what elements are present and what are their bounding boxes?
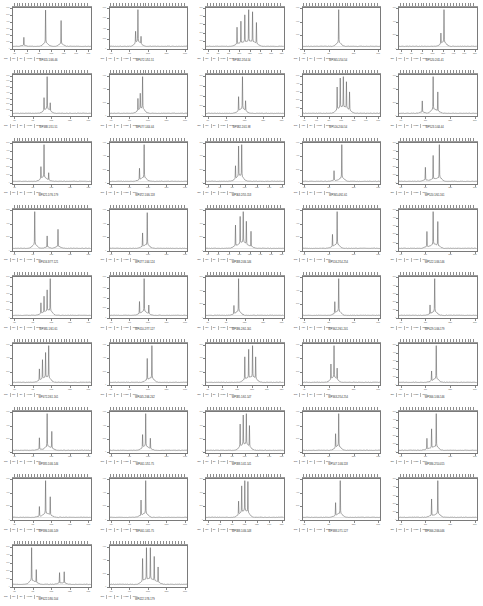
- plot-box[interactable]: [205, 74, 285, 117]
- spectrum-panel[interactable]: 020004000600040080012001600Obs.calc.Err.…: [290, 471, 387, 538]
- plot-box[interactable]: [398, 142, 478, 185]
- spectrum-panel[interactable]: 0200040006000400700100013001600Obs.calc.…: [97, 67, 194, 134]
- spectrum-panel[interactable]: 0200040006000400700100013001600Obs.calc.…: [0, 404, 97, 471]
- spectrum-panel[interactable]: 01000200030004000500040080012001600Obs.c…: [386, 336, 483, 403]
- spectrum-panel[interactable]: 0100020003000400050006000400600800100012…: [0, 0, 97, 67]
- spectrum-panel[interactable]: 0200040006000400700100013001600Obs.calc.…: [97, 202, 194, 269]
- plot-box[interactable]: [205, 142, 285, 185]
- spectrum-panel[interactable]: 01000200030004000500040080012001600Obs.c…: [386, 269, 483, 336]
- y-tick-label: 0: [299, 183, 300, 185]
- plot-box[interactable]: [12, 142, 92, 185]
- plot-box[interactable]: [12, 411, 92, 454]
- spectrum-panel[interactable]: 0200040006000400600800100012001400160018…: [193, 202, 290, 269]
- plot-box[interactable]: [302, 411, 382, 454]
- spectrum-panel[interactable]: 0200040006000400700100013001600Obs.calc.…: [0, 471, 97, 538]
- caption-field-label: calc.: [205, 191, 209, 193]
- field-separator: [420, 393, 421, 397]
- plot-box[interactable]: [109, 142, 189, 185]
- caption-field-label: Err.: [310, 57, 313, 59]
- spectrum-panel[interactable]: 010002000300040005000400700100013001600O…: [0, 538, 97, 605]
- spectrum-panel[interactable]: 02000400060004006008001000120014001600Ob…: [193, 471, 290, 538]
- plot-box[interactable]: [205, 478, 285, 521]
- spectrum-panel[interactable]: 020004000600040080012001600Obs.calc.Err.…: [290, 135, 387, 202]
- panel-sample-id: WP363.2/55.153: [232, 194, 252, 197]
- spectrum-panel[interactable]: 010002000300040005000400700100013001600O…: [0, 135, 97, 202]
- spectrum-panel[interactable]: 01000200030004000500040080012001600Obs.c…: [386, 404, 483, 471]
- plot-box[interactable]: [109, 478, 189, 521]
- spectrum-panel[interactable]: 0200040006000400700100013001600Obs.calc.…: [97, 538, 194, 605]
- y-tick-label: 4000: [296, 357, 299, 359]
- y-tick-label: 3000: [393, 427, 396, 429]
- spectrum-panel[interactable]: 0200040006000400700100013001600Obs.calc.…: [97, 336, 194, 403]
- spectrum-panel[interactable]: 02000400060008000400700100013001600Obs.c…: [97, 0, 194, 67]
- spectrum-panel[interactable]: 0200040006000400700100013001600Obs.calc.…: [0, 202, 97, 269]
- plot-box[interactable]: [302, 209, 382, 252]
- plot-box[interactable]: [205, 276, 285, 319]
- caption-field-label: Err.: [406, 124, 409, 126]
- plot-box[interactable]: [109, 545, 189, 588]
- spectrum-panel[interactable]: 0200040006000400600800100012001400160018…: [386, 0, 483, 67]
- spectrum-panel[interactable]: 01000200030004000500040080012001600Obs.c…: [386, 471, 483, 538]
- plot-box[interactable]: [109, 7, 189, 50]
- spectrum-panel[interactable]: 02000400060004007001000130016001800Obs.c…: [193, 336, 290, 403]
- plot-box[interactable]: [398, 478, 478, 521]
- plot-box[interactable]: [302, 343, 382, 386]
- plot-box[interactable]: [398, 411, 478, 454]
- plot-box[interactable]: [302, 7, 382, 50]
- spectrum-panel[interactable]: 020004000600040080012001600Obs.calc.Err.…: [290, 269, 387, 336]
- plot-box[interactable]: [109, 276, 189, 319]
- spectrum-panel[interactable]: 0200040006000400700100013001600Obs.calc.…: [97, 135, 194, 202]
- plot-box[interactable]: [205, 7, 285, 50]
- spectrum-panel[interactable]: 0200040006000400700100013001600Obs.calc.…: [0, 336, 97, 403]
- plot-box[interactable]: [12, 7, 92, 50]
- spectrum-panel[interactable]: 0200040006000400700100013001600Obs.calc.…: [193, 269, 290, 336]
- plot-box[interactable]: [398, 7, 478, 50]
- caption-field: calc.: [302, 393, 306, 395]
- plot-box[interactable]: [205, 411, 285, 454]
- spectrum-panel[interactable]: 010002000300040005000400700100013001600O…: [0, 269, 97, 336]
- plot-box[interactable]: [398, 276, 478, 319]
- plot-box[interactable]: [12, 209, 92, 252]
- panel-sample-id: WP366.2/46.046: [425, 530, 445, 533]
- plot-box[interactable]: [109, 209, 189, 252]
- caption-field-label: Height: [220, 460, 225, 462]
- spectrum-panel[interactable]: 02000400060004006008001000120014001600Ob…: [193, 135, 290, 202]
- plot-box[interactable]: [302, 478, 382, 521]
- spectrum-panel[interactable]: 02000400060008000400700100013001600Obs.c…: [97, 269, 194, 336]
- spectrum-panel[interactable]: 020004000600040080012001600Obs.calc.Err.…: [290, 336, 387, 403]
- spectrum-panel[interactable]: 020004000600040080012001600Obs.calc.Err.…: [290, 404, 387, 471]
- plot-box[interactable]: [302, 276, 382, 319]
- plot-box[interactable]: [302, 74, 382, 117]
- spectrum-panel[interactable]: 02000400060004006008001000120014001600Ob…: [193, 404, 290, 471]
- spectrum-panel[interactable]: 0100020003000400050004006008001000120014…: [193, 0, 290, 67]
- plot-box[interactable]: [109, 343, 189, 386]
- spectrum-panel[interactable]: 020004000600040080012001600Obs.calc.Err.…: [386, 67, 483, 134]
- field-separator: [324, 528, 325, 532]
- panel-sample-id: WP382.2/41.98: [232, 126, 250, 129]
- plot-box[interactable]: [109, 411, 189, 454]
- spectrum-panel[interactable]: 0200040006000400700100013001600Obs.calc.…: [97, 471, 194, 538]
- spectrum-panel[interactable]: 0100020003000400050006000700040070010001…: [0, 67, 97, 134]
- spectrum-panel[interactable]: 02000400060008000400700100013001600Obs.c…: [193, 67, 290, 134]
- spectrum-panel[interactable]: 0200040006000400700100013001600Obs.calc.…: [97, 404, 194, 471]
- plot-box[interactable]: [109, 74, 189, 117]
- spectrum-panel[interactable]: 01000200030004000500040080012001600Obs.c…: [386, 135, 483, 202]
- plot-box[interactable]: [205, 343, 285, 386]
- plot-box[interactable]: [205, 209, 285, 252]
- plot-box[interactable]: [302, 142, 382, 185]
- spectrum-panel[interactable]: 030006000900040080012001600Obs.calc.Err.…: [290, 0, 387, 67]
- plot-box[interactable]: [12, 478, 92, 521]
- plot-box[interactable]: [398, 74, 478, 117]
- spectrum-panel[interactable]: 020004000600040080012001600Obs.calc.Err.…: [290, 202, 387, 269]
- spectrum-panel[interactable]: 0100020003000400050004006008001000120014…: [290, 67, 387, 134]
- plot-box[interactable]: [12, 545, 92, 588]
- y-tick-label: 2000: [296, 236, 299, 238]
- plot-box[interactable]: [12, 276, 92, 319]
- plot-box[interactable]: [398, 209, 478, 252]
- y-tick-label: 2000: [199, 371, 202, 373]
- spectrum-panel[interactable]: 01000200030004000500040080012001600Obs.c…: [386, 202, 483, 269]
- plot-box[interactable]: [398, 343, 478, 386]
- plot-box[interactable]: [12, 343, 92, 386]
- x-tick-label: 1600: [87, 186, 91, 188]
- plot-box[interactable]: [12, 74, 92, 117]
